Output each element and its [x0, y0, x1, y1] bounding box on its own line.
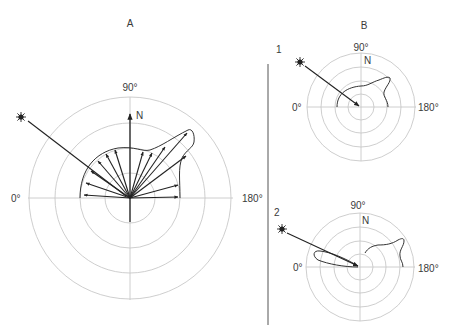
angle-180-label-b1: 180°: [418, 102, 439, 113]
north-label-b1: N: [364, 55, 371, 66]
sub-label-1: 1: [276, 44, 282, 55]
figure-canvas: A B N: [0, 0, 452, 330]
polar-diagram-b1: 1 90° N 0° 180°: [276, 42, 439, 161]
polar-diagram-a: N 90° 0° 180°: [11, 82, 263, 300]
angle-0-label-b1: 0°: [292, 102, 302, 113]
sun-icon: [295, 57, 305, 67]
sun-icon: [277, 224, 287, 234]
angle-90-label-b1: 90°: [353, 42, 368, 53]
panel-a-title: A: [127, 18, 134, 29]
panel-b-title: B: [361, 20, 368, 31]
ray-fan-a: [84, 133, 187, 198]
polar-diagram-b2: 2 90° N 0° 180°: [274, 200, 439, 321]
angle-180-label-b2: 180°: [418, 263, 439, 274]
angle-180-label-a: 180°: [242, 193, 263, 204]
sun-icon: [16, 112, 26, 122]
angle-90-label-b2: 90°: [350, 200, 365, 211]
radiation-envelope-b2: [365, 239, 404, 267]
sub-label-2: 2: [274, 207, 280, 218]
north-label-b2: N: [362, 215, 369, 226]
angle-0-label-b2: 0°: [293, 262, 303, 273]
incident-ray-a: [28, 121, 126, 196]
angle-90-label-a: 90°: [122, 82, 137, 93]
angle-0-label-a: 0°: [11, 193, 21, 204]
north-label-a: N: [136, 110, 143, 121]
incident-ray-b1: [305, 66, 359, 106]
